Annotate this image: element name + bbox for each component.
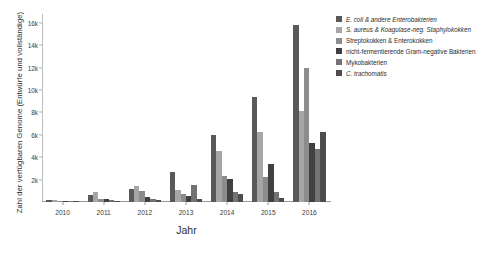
bar-group: 2016 xyxy=(289,14,330,202)
bar-group-bars xyxy=(42,14,83,202)
bar xyxy=(320,132,325,202)
x-axis-tick-label: 2013 xyxy=(179,209,194,216)
x-axis-tick-label: 2010 xyxy=(55,209,70,216)
bar-group-bars xyxy=(83,14,124,202)
y-axis-tick-label: 6k xyxy=(31,131,38,138)
x-axis-tick-mark xyxy=(144,202,145,205)
bar-group: 2013 xyxy=(165,14,206,202)
legend: E. coli & andere EnterobakterienS. aureu… xyxy=(336,14,500,79)
y-axis-title: Zahl der verfügbaren Genome (Entwürfe un… xyxy=(15,8,24,218)
bar xyxy=(197,199,202,202)
y-axis-tick-label: 14k xyxy=(28,42,38,49)
legend-swatch-icon xyxy=(336,38,342,44)
legend-item[interactable]: nicht-fermentierende Gram-negative Bakte… xyxy=(336,46,500,56)
legend-swatch-icon xyxy=(336,70,342,76)
bar-group: 2011 xyxy=(83,14,124,202)
legend-item-label: Mykobakterien xyxy=(346,59,387,66)
legend-item-label: nicht-fermentierende Gram-negative Bakte… xyxy=(346,48,476,55)
y-axis-tick-label: 8k xyxy=(31,109,38,116)
x-axis-tick-label: 2015 xyxy=(261,209,276,216)
bar-group-bars xyxy=(124,14,165,202)
x-axis-tick-label: 2012 xyxy=(138,209,153,216)
x-axis-tick-label: 2014 xyxy=(220,209,235,216)
bar-group: 2012 xyxy=(124,14,165,202)
bar-group: 2015 xyxy=(248,14,289,202)
legend-item-label: S. aureus & Koagulase-neg. Staphylokokke… xyxy=(346,26,471,33)
legend-item[interactable]: S. aureus & Koagulase-neg. Staphylokokke… xyxy=(336,25,500,35)
y-axis-tick-label: 10k xyxy=(28,87,38,94)
legend-swatch-icon xyxy=(336,27,342,33)
legend-item-label: E. coli & andere Enterobakterien xyxy=(346,16,437,23)
bar-group-bars xyxy=(248,14,289,202)
bar-chart: Zahl der verfügbaren Genome (Entwürfe un… xyxy=(0,0,502,254)
x-axis-title: Jahr xyxy=(42,224,331,236)
legend-item[interactable]: E. coli & andere Enterobakterien xyxy=(336,14,500,24)
legend-item[interactable]: Mykobakterien xyxy=(336,57,500,67)
x-axis-tick-mark xyxy=(103,202,104,205)
bar xyxy=(238,194,243,202)
bar-group: 2014 xyxy=(207,14,248,202)
y-axis-tick-label: 12k xyxy=(28,64,38,71)
bar-group-bars xyxy=(207,14,248,202)
legend-swatch-icon xyxy=(336,16,342,22)
bar xyxy=(156,200,161,202)
x-axis-tick-mark xyxy=(309,202,310,205)
legend-item[interactable]: Streptokokken & Enterokokken xyxy=(336,36,500,46)
bar xyxy=(73,201,78,202)
x-axis-tick-mark xyxy=(62,202,63,205)
bar xyxy=(279,198,284,202)
y-axis-tick-label: 16k xyxy=(28,19,38,26)
y-axis-tick-label: 2k xyxy=(31,176,38,183)
legend-item[interactable]: C. trachomatis xyxy=(336,68,500,78)
bar-group-bars xyxy=(289,14,330,202)
x-axis-tick-mark xyxy=(185,202,186,205)
x-axis-tick-label: 2011 xyxy=(97,209,111,216)
y-axis-tick-label: 4k xyxy=(31,154,38,161)
legend-item-label: Streptokokken & Enterokokken xyxy=(346,37,432,44)
bar-group: 2010 xyxy=(42,14,83,202)
legend-swatch-icon xyxy=(336,48,342,54)
legend-item-label: C. trachomatis xyxy=(346,70,387,77)
bar-group-bars xyxy=(165,14,206,202)
x-axis-tick-mark xyxy=(268,202,269,205)
bar xyxy=(114,201,119,202)
legend-swatch-icon xyxy=(336,59,342,65)
x-axis-tick-mark xyxy=(227,202,228,205)
x-axis-tick-label: 2016 xyxy=(302,209,317,216)
plot-area: 2k4k6k8k10k12k14k16k20102011201220132014… xyxy=(42,14,330,202)
